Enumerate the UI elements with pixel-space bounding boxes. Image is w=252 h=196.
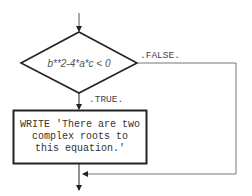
process-line-3: this equation.' (35, 143, 125, 154)
decision-condition: b**2-4*a*c < 0 (47, 58, 111, 69)
flowchart: b**2-4*a*c < 0 .FALSE. .TRUE. WRITE 'The… (0, 0, 252, 196)
false-branch-label: .FALSE. (140, 50, 180, 61)
process-line-2: complex roots to (32, 131, 128, 142)
true-branch-label: .TRUE. (89, 94, 123, 105)
process-line-1: WRITE 'There are two (20, 119, 140, 130)
